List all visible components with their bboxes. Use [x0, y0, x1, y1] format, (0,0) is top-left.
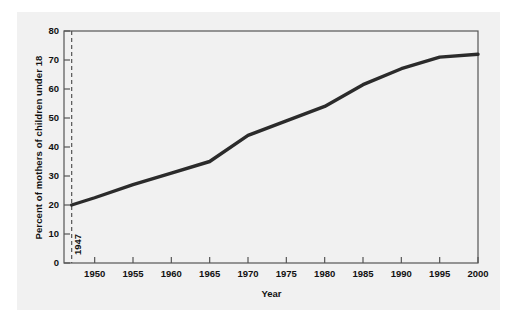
chart-figure: Percent of mothers of children under 18 …: [0, 0, 514, 326]
reference-line-1947: 1947: [72, 31, 83, 263]
y-axis-ticks: 01020304050607080: [48, 25, 70, 268]
x-tick-label: 1990: [391, 268, 412, 279]
y-tick-label: 30: [48, 170, 59, 181]
y-tick-label: 20: [48, 199, 59, 210]
x-tick-label: 1970: [237, 268, 258, 279]
annotation-label-1947: 1947: [72, 234, 83, 255]
x-tick-label: 1955: [122, 268, 144, 279]
line-chart-plot: 01020304050607080 1950195519601965197019…: [0, 0, 514, 326]
y-tick-label: 40: [48, 141, 59, 152]
data-series-line: [72, 54, 478, 205]
x-tick-label: 1985: [352, 268, 374, 279]
x-tick-label: 1980: [314, 268, 335, 279]
x-tick-label: 1960: [161, 268, 182, 279]
x-tick-label: 2000: [467, 268, 488, 279]
x-tick-label: 1975: [276, 268, 298, 279]
y-tick-label: 60: [48, 83, 59, 94]
x-tick-label: 1965: [199, 268, 221, 279]
x-tick-label: 1950: [84, 268, 105, 279]
y-tick-label: 70: [48, 54, 59, 65]
y-tick-label: 0: [54, 257, 59, 268]
x-tick-label: 1995: [429, 268, 451, 279]
y-tick-label: 50: [48, 112, 59, 123]
y-tick-label: 80: [48, 25, 59, 36]
y-tick-label: 10: [48, 228, 59, 239]
series-polyline: [72, 54, 478, 205]
x-axis-ticks: 1950195519601965197019751980198519901995…: [84, 257, 488, 279]
